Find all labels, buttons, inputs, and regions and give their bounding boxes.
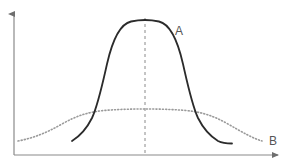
curve-b-label: B (269, 134, 277, 148)
plot-canvas: A B (0, 0, 288, 166)
distribution-comparison-figure: A B (0, 0, 288, 166)
curve-a-narrow-distribution (72, 20, 232, 144)
curve-b-wide-distribution (18, 109, 262, 141)
curve-a-label: A (175, 24, 183, 38)
